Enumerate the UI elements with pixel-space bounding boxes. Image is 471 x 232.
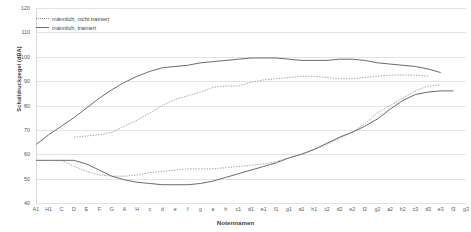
legend: männlich, nicht trainiert männlich, trai… [36,14,110,32]
x-axis-title: Notennamen [0,219,471,226]
y-tick-label: 100 [2,54,30,60]
y-tick-label: 110 [2,29,30,35]
legend-item-trained: männlich, trainiert [36,23,110,32]
legend-item-untrained: männlich, nicht trainiert [36,14,110,23]
data-curves [36,8,466,203]
series-line [61,85,440,176]
legend-label-trained: männlich, trainiert [52,25,96,31]
x-tick-label: g3 [457,206,471,212]
legend-label-untrained: männlich, nicht trainiert [52,16,110,22]
series-line [36,58,441,145]
y-tick-label: 80 [2,103,30,109]
y-tick-label: 60 [2,151,30,157]
y-tick-label: 50 [2,176,30,182]
y-tick-label: 120 [2,5,30,11]
chart-container: Schalldruckpegel (dBA) Notennamen 405060… [0,0,471,232]
series-line [36,91,453,185]
legend-dotted-line-icon [36,18,49,19]
y-tick-label: 40 [2,200,30,206]
gridline [36,203,466,204]
y-tick-label: 90 [2,78,30,84]
series-line [74,75,428,137]
legend-solid-line-icon [36,27,49,28]
y-tick-label: 70 [2,127,30,133]
